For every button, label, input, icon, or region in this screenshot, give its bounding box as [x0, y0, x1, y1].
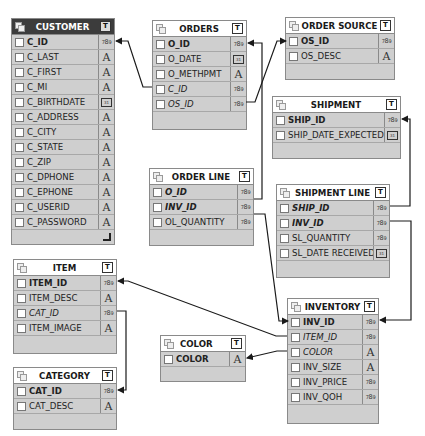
column-row[interactable]: CAT_DESCA — [14, 399, 116, 414]
column-row[interactable]: C_ZIPA — [12, 155, 114, 170]
table-toggle-icon[interactable]: T — [239, 171, 250, 182]
column-checkbox[interactable] — [291, 348, 300, 357]
column-checkbox[interactable] — [291, 333, 300, 342]
table-header[interactable]: ORDERS T — [153, 21, 246, 37]
column-row[interactable]: C_ID789 — [153, 82, 246, 97]
table-header[interactable]: INVENTORY T — [288, 299, 378, 315]
column-checkbox[interactable] — [15, 218, 24, 227]
column-row[interactable]: INV_ID789 — [150, 200, 253, 215]
column-checkbox[interactable] — [15, 173, 24, 182]
column-row[interactable]: C_USERIDA — [12, 200, 114, 215]
table-toggle-icon[interactable]: T — [380, 20, 391, 31]
column-checkbox[interactable] — [291, 378, 300, 387]
column-row[interactable]: SL_DATE RECEIVED31 — [277, 246, 389, 261]
column-checkbox[interactable] — [15, 83, 24, 92]
table-toggle-icon[interactable]: T — [232, 23, 243, 34]
table-shipment-line[interactable]: SHIPMENT LINE T SHIP_ID789INV_ID789SL_QU… — [276, 184, 390, 278]
table-header[interactable]: COLOR T — [161, 336, 245, 352]
column-row[interactable]: INV_QOH789 — [288, 390, 378, 405]
column-row[interactable]: OS_DESCA — [286, 49, 394, 64]
column-checkbox[interactable] — [17, 309, 26, 318]
table-color[interactable]: COLOR T COLORA — [160, 335, 246, 382]
column-row[interactable]: COLORA — [161, 352, 245, 367]
column-checkbox[interactable] — [291, 393, 300, 402]
table-order-line[interactable]: ORDER LINE T O_ID789INV_ID789OL_QUANTITY… — [149, 168, 254, 246]
column-checkbox[interactable] — [15, 38, 24, 47]
column-row[interactable]: O_ID789 — [153, 37, 246, 52]
column-row[interactable]: C_ADDRESSA — [12, 110, 114, 125]
column-checkbox[interactable] — [291, 363, 300, 372]
column-row[interactable]: CAT_ID789 — [14, 306, 116, 321]
column-checkbox[interactable] — [15, 143, 24, 152]
column-row[interactable]: OS_ID789 — [286, 34, 394, 49]
table-header[interactable]: CUSTOMER T — [12, 19, 114, 35]
column-checkbox[interactable] — [17, 402, 26, 411]
table-toggle-icon[interactable]: T — [386, 99, 397, 110]
table-toggle-icon[interactable]: T — [100, 21, 111, 32]
column-row[interactable]: ITEM_ID789 — [288, 330, 378, 345]
column-row[interactable]: C_CITYA — [12, 125, 114, 140]
column-row[interactable]: SHIP_ID789 — [277, 201, 389, 216]
table-category[interactable]: CATEGORY T CAT_ID789CAT_DESCA — [13, 367, 117, 430]
column-row[interactable]: ITEM_ID789 — [14, 276, 116, 291]
column-row[interactable]: OL_QUANTITY789 — [150, 215, 253, 230]
column-checkbox[interactable] — [156, 85, 165, 94]
column-checkbox[interactable] — [15, 113, 24, 122]
column-row[interactable]: INV_SIZEA — [288, 360, 378, 375]
column-row[interactable]: SHIP_ID789 — [273, 113, 400, 128]
table-toggle-icon[interactable]: T — [375, 187, 386, 198]
column-row[interactable]: CAT_ID789 — [14, 384, 116, 399]
table-item[interactable]: ITEM T ITEM_ID789ITEM_DESCACAT_ID789ITEM… — [13, 259, 117, 354]
column-checkbox[interactable] — [15, 53, 24, 62]
column-row[interactable]: ITEM_DESCA — [14, 291, 116, 306]
column-checkbox[interactable] — [17, 279, 26, 288]
table-header[interactable]: SHIPMENT T — [273, 97, 400, 113]
column-row[interactable]: C_ID789 — [12, 35, 114, 50]
column-row[interactable]: COLORA — [288, 345, 378, 360]
column-row[interactable]: C_DPHONEA — [12, 170, 114, 185]
table-customer[interactable]: CUSTOMER T C_ID789C_LASTAC_FIRSTAC_MIAC_… — [11, 18, 115, 245]
column-checkbox[interactable] — [164, 355, 173, 364]
column-checkbox[interactable] — [291, 318, 300, 327]
column-checkbox[interactable] — [289, 37, 298, 46]
table-toggle-icon[interactable]: T — [231, 338, 242, 349]
table-order-source[interactable]: ORDER SOURCE T OS_ID789OS_DESCA — [285, 17, 395, 80]
column-checkbox[interactable] — [280, 204, 289, 213]
column-checkbox[interactable] — [280, 249, 289, 258]
column-checkbox[interactable] — [17, 324, 26, 333]
column-row[interactable]: C_FIRSTA — [12, 65, 114, 80]
column-row[interactable]: OS_ID789 — [153, 97, 246, 112]
column-checkbox[interactable] — [156, 70, 165, 79]
column-checkbox[interactable] — [289, 52, 298, 61]
column-checkbox[interactable] — [276, 116, 285, 125]
column-row[interactable]: INV_PRICE789 — [288, 375, 378, 390]
table-toggle-icon[interactable]: T — [102, 262, 113, 273]
column-row[interactable]: C_MIA — [12, 80, 114, 95]
column-checkbox[interactable] — [156, 40, 165, 49]
column-row[interactable]: C_PASSWORDA — [12, 215, 114, 230]
column-checkbox[interactable] — [17, 294, 26, 303]
column-checkbox[interactable] — [15, 98, 24, 107]
column-row[interactable]: C_EPHONEA — [12, 185, 114, 200]
column-row[interactable]: O_ID789 — [150, 185, 253, 200]
table-orders[interactable]: ORDERS T O_ID789O_DATE31O_METHPMTAC_ID78… — [152, 20, 247, 130]
column-checkbox[interactable] — [153, 203, 162, 212]
table-header[interactable]: ORDER LINE T — [150, 169, 253, 185]
resize-handle-icon[interactable] — [103, 233, 111, 241]
column-row[interactable]: C_LASTA — [12, 50, 114, 65]
table-toggle-icon[interactable]: T — [364, 301, 375, 312]
table-header[interactable]: SHIPMENT LINE T — [277, 185, 389, 201]
column-row[interactable]: ITEM_IMAGEA — [14, 321, 116, 336]
table-header[interactable]: ORDER SOURCE T — [286, 18, 394, 34]
column-checkbox[interactable] — [17, 387, 26, 396]
column-row[interactable]: INV_ID789 — [288, 315, 378, 330]
column-checkbox[interactable] — [15, 68, 24, 77]
table-inventory[interactable]: INVENTORY T INV_ID789ITEM_ID789COLORAINV… — [287, 298, 379, 424]
column-row[interactable]: INV_ID789 — [277, 216, 389, 231]
column-checkbox[interactable] — [280, 234, 289, 243]
column-checkbox[interactable] — [153, 188, 162, 197]
column-checkbox[interactable] — [15, 203, 24, 212]
table-toggle-icon[interactable]: T — [102, 370, 113, 381]
column-checkbox[interactable] — [280, 219, 289, 228]
table-shipment[interactable]: SHIPMENT T SHIP_ID789SHIP_DATE_EXPECTED3… — [272, 96, 401, 159]
